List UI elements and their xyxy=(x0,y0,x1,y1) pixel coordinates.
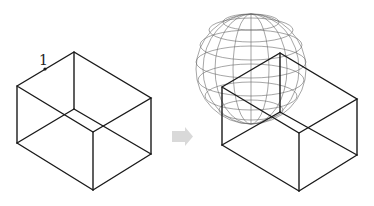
point-label: 1 xyxy=(39,52,48,68)
arrow-icon xyxy=(172,127,193,146)
left-box-top-face xyxy=(17,52,151,132)
sphere-wireframe xyxy=(196,14,306,124)
left-box xyxy=(17,52,151,190)
right-box-top-face xyxy=(222,53,357,133)
diagram-canvas: 1 xyxy=(0,0,374,206)
